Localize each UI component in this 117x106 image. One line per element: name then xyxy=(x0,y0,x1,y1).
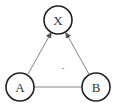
causal-diagram: X A B - xyxy=(0,0,117,106)
edge-a-to-x xyxy=(28,33,51,74)
node-x-label: X xyxy=(53,13,63,28)
node-a-label: A xyxy=(15,80,25,95)
node-b: B xyxy=(82,73,110,101)
center-mark: - xyxy=(62,64,65,73)
edge-b-to-x xyxy=(66,33,89,74)
node-x: X xyxy=(44,6,72,34)
node-a: A xyxy=(6,73,34,101)
node-b-label: B xyxy=(92,80,101,95)
